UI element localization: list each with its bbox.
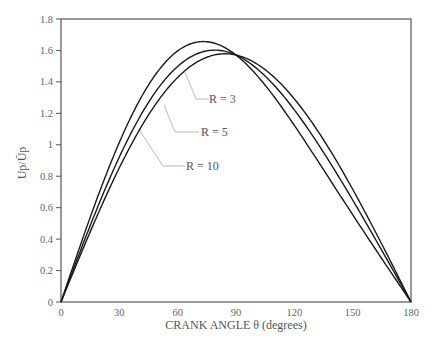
leader-line-r3 [185,72,209,99]
x-tick-label: 120 [286,307,302,318]
x-axis-ticks: 0306090120150180 [58,307,419,318]
x-tick-label: 150 [345,307,361,318]
x-tick-label: 180 [403,307,419,318]
x-tick-label: 30 [114,307,125,318]
y-tick-label: 0.4 [40,234,54,245]
x-tick-label: 0 [58,307,63,318]
leader-line-r5 [164,105,199,132]
plot-frame [61,19,411,302]
label-r10: R = 10 [186,159,219,173]
y-axis-title: Up/Ūp [15,147,29,180]
curves [61,42,411,302]
y-tick-label: 1.8 [40,14,53,25]
label-r5: R = 5 [201,125,228,139]
curve-r5 [61,50,411,302]
y-tick-label: 0.2 [40,265,53,276]
x-tick-label: 90 [231,307,242,318]
y-tick-label: 1.6 [40,45,53,56]
label-r3: R = 3 [209,92,236,106]
y-tick-label: 0.8 [40,171,53,182]
y-tick-label: 1.4 [40,76,54,87]
x-axis-title: CRANK ANGLE θ (degrees) [165,318,306,332]
curve-r3 [61,42,411,302]
y-axis-ticks: 00.20.40.60.811.21.41.61.8 [40,14,61,308]
y-tick-label: 1.2 [40,108,53,119]
leader-line-r10 [140,131,185,166]
x-tick-label: 60 [172,307,183,318]
y-tick-label: 0 [48,297,53,308]
y-tick-label: 0.6 [40,202,53,213]
curve-r10 [61,54,411,302]
y-tick-label: 1 [48,139,53,150]
piston-speed-chart: 00.20.40.60.811.21.41.61.8 0306090120150… [0,0,438,346]
